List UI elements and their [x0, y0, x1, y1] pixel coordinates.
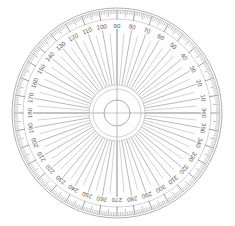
- degree-tick: [148, 15, 149, 19]
- degree-tick: [205, 66, 209, 68]
- degree-tick: [171, 196, 173, 199]
- degree-tick: [131, 11, 132, 15]
- degree-tick: [185, 181, 190, 186]
- degree-tick: [186, 184, 189, 187]
- degree-tick: [213, 88, 217, 89]
- degree-tick: [209, 95, 218, 97]
- degree-tick: [99, 12, 101, 21]
- degree-tick: [58, 29, 62, 34]
- degree-tick: [96, 210, 97, 214]
- degree-tick: [201, 165, 204, 167]
- degree-tick: [19, 142, 23, 143]
- degree-tick: [189, 181, 192, 184]
- degree-tick: [210, 86, 216, 88]
- degree-tick: [28, 62, 36, 67]
- degree-tick: [212, 83, 216, 84]
- degree-tick: [211, 145, 215, 146]
- degree-tick: [35, 51, 38, 53]
- degree-tick: [67, 200, 69, 204]
- degree-label: 70: [143, 26, 152, 35]
- degree-tick: [202, 60, 205, 62]
- degree-tick: [54, 191, 56, 194]
- degree-tick: [204, 65, 208, 67]
- degree-tick: [182, 35, 185, 38]
- degree-tick: [157, 203, 159, 207]
- degree-tick: [149, 16, 152, 25]
- degree-tick: [139, 209, 140, 213]
- degree-tick: [92, 13, 93, 17]
- degree-tick: [164, 194, 169, 202]
- degree-tick: [212, 85, 216, 86]
- degree-tick: [24, 68, 28, 70]
- degree-label: 10: [199, 94, 207, 103]
- degree-tick: [26, 65, 30, 67]
- degree-tick: [66, 24, 71, 32]
- degree-tick: [206, 68, 210, 70]
- degree-tick: [209, 74, 213, 75]
- degree-tick: [125, 10, 126, 16]
- degree-tick: [152, 205, 153, 209]
- degree-tick: [169, 197, 171, 200]
- degree-tick: [21, 148, 25, 149]
- degree-tick: [163, 22, 165, 26]
- degree-tick: [39, 45, 42, 48]
- degree-tick: [179, 33, 182, 36]
- degree-tick: [92, 209, 93, 213]
- degree-tick: [201, 58, 204, 60]
- center-hub: [104, 100, 130, 126]
- degree-tick: [154, 18, 155, 22]
- degree-tick: [103, 211, 104, 215]
- degree-tick: [191, 44, 194, 47]
- degree-tick: [94, 13, 95, 17]
- degree-tick: [78, 18, 79, 22]
- degree-tick: [17, 90, 21, 91]
- degree-tick: [211, 79, 215, 80]
- degree-tick: [80, 17, 81, 21]
- degree-label: 270: [111, 197, 122, 204]
- degree-tick: [85, 15, 86, 19]
- degree-tick: [89, 208, 90, 212]
- degree-tick: [163, 200, 165, 204]
- degree-tick: [214, 134, 218, 135]
- degree-tick: [196, 51, 199, 53]
- degree-tick: [32, 55, 35, 57]
- degree-tick: [209, 148, 213, 149]
- degree-tick: [101, 211, 102, 215]
- degree-tick: [22, 152, 26, 154]
- degree-tick: [34, 52, 37, 54]
- degree-tick: [132, 11, 133, 15]
- degree-label: 210: [35, 150, 47, 163]
- degree-tick: [15, 128, 19, 129]
- degree-tick: [175, 193, 177, 196]
- degree-tick: [149, 201, 152, 210]
- degree-label: 240: [66, 183, 79, 195]
- degree-tick: [18, 140, 22, 141]
- degree-tick: [101, 11, 102, 15]
- degree-tick: [82, 201, 85, 210]
- degree-tick: [195, 174, 198, 176]
- degree-tick: [194, 48, 197, 51]
- degree-tick: [183, 187, 186, 190]
- degree-tick: [22, 73, 26, 75]
- degree-tick: [18, 85, 22, 86]
- degree-tick: [19, 81, 23, 82]
- degree-tick: [36, 50, 39, 52]
- degree-tick: [90, 206, 92, 212]
- degree-tick: [168, 25, 170, 28]
- degree-tick: [177, 31, 179, 34]
- degree-tick: [211, 144, 215, 145]
- degree-tick: [17, 135, 21, 136]
- degree-tick: [148, 207, 149, 211]
- degree-tick: [96, 12, 97, 16]
- degree-tick: [20, 145, 29, 148]
- degree-tick: [156, 204, 158, 208]
- degree-label: 260: [96, 195, 108, 204]
- degree-tick: [212, 142, 216, 143]
- degree-tick: [42, 181, 45, 184]
- degree-tick: [157, 19, 159, 23]
- degree-tick: [165, 200, 167, 204]
- degree-label: 40: [179, 52, 189, 62]
- degree-tick: [83, 16, 84, 20]
- degree-label: 150: [35, 62, 47, 75]
- degree-tick: [83, 207, 84, 211]
